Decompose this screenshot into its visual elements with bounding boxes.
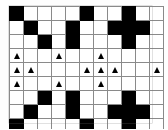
filled-cell xyxy=(122,91,136,105)
triangle-marker-icon xyxy=(112,67,118,73)
empty-cell xyxy=(150,91,164,105)
empty-cell xyxy=(38,119,52,130)
empty-cell xyxy=(136,63,150,77)
empty-cell xyxy=(150,49,164,63)
empty-cell xyxy=(52,63,66,77)
empty-cell xyxy=(108,91,122,105)
empty-cell xyxy=(66,77,80,91)
triangle-marker-icon xyxy=(14,67,20,73)
filled-cell xyxy=(38,35,52,49)
grid-body xyxy=(10,7,164,130)
grid-row xyxy=(10,105,164,119)
grid-row xyxy=(10,119,164,130)
filled-cell xyxy=(122,21,136,35)
empty-cell xyxy=(94,119,108,130)
empty-cell xyxy=(38,49,52,63)
filled-cell xyxy=(66,21,80,35)
empty-cell xyxy=(136,77,150,91)
triangle-marker-cell xyxy=(10,63,24,77)
triangle-marker-icon xyxy=(56,81,62,87)
empty-cell xyxy=(24,7,38,21)
empty-cell xyxy=(94,35,108,49)
empty-cell xyxy=(38,77,52,91)
filled-cell xyxy=(24,21,38,35)
empty-cell xyxy=(108,119,122,130)
triangle-marker-icon xyxy=(14,81,20,87)
empty-cell xyxy=(38,21,52,35)
grid-row xyxy=(10,49,164,63)
empty-cell xyxy=(38,63,52,77)
triangle-marker-icon xyxy=(84,67,90,73)
empty-cell xyxy=(24,49,38,63)
empty-cell xyxy=(122,49,136,63)
empty-cell xyxy=(136,7,150,21)
triangle-marker-cell xyxy=(52,77,66,91)
triangle-marker-cell xyxy=(94,77,108,91)
empty-cell xyxy=(10,21,24,35)
filled-cell xyxy=(108,21,122,35)
empty-cell xyxy=(150,35,164,49)
filled-cell xyxy=(10,119,24,130)
triangle-marker-cell xyxy=(150,63,164,77)
triangle-marker-cell xyxy=(52,49,66,63)
empty-cell xyxy=(24,77,38,91)
filled-cell xyxy=(66,105,80,119)
empty-cell xyxy=(150,119,164,130)
empty-cell xyxy=(10,105,24,119)
empty-cell xyxy=(94,105,108,119)
triangle-marker-cell xyxy=(10,49,24,63)
grid-row xyxy=(10,21,164,35)
triangle-marker-cell xyxy=(108,63,122,77)
empty-cell xyxy=(80,77,94,91)
empty-cell xyxy=(10,91,24,105)
empty-cell xyxy=(52,7,66,21)
empty-cell xyxy=(136,35,150,49)
empty-cell xyxy=(66,63,80,77)
triangle-marker-cell xyxy=(10,77,24,91)
empty-cell xyxy=(52,119,66,130)
empty-cell xyxy=(108,7,122,21)
empty-cell xyxy=(52,35,66,49)
filled-cell xyxy=(38,91,52,105)
lattice-grid xyxy=(9,6,164,129)
triangle-marker-icon xyxy=(28,67,34,73)
grid-row xyxy=(10,77,164,91)
grid-row xyxy=(10,7,164,21)
empty-cell xyxy=(10,35,24,49)
triangle-marker-icon xyxy=(56,53,62,59)
filled-cell xyxy=(80,119,94,130)
filled-cell xyxy=(108,105,122,119)
triangle-marker-cell xyxy=(94,63,108,77)
empty-cell xyxy=(122,77,136,91)
empty-cell xyxy=(80,21,94,35)
empty-cell xyxy=(108,49,122,63)
empty-cell xyxy=(94,91,108,105)
filled-cell xyxy=(24,105,38,119)
empty-cell xyxy=(150,77,164,91)
empty-cell xyxy=(150,7,164,21)
grid-container xyxy=(9,6,164,129)
empty-cell xyxy=(38,105,52,119)
empty-cell xyxy=(136,49,150,63)
empty-cell xyxy=(122,63,136,77)
filled-cell xyxy=(122,7,136,21)
triangle-marker-icon xyxy=(154,67,160,73)
triangle-marker-icon xyxy=(98,81,104,87)
empty-cell xyxy=(136,119,150,130)
empty-cell xyxy=(52,21,66,35)
empty-cell xyxy=(24,35,38,49)
filled-cell xyxy=(136,105,150,119)
empty-cell xyxy=(66,49,80,63)
lattice-pattern-diagram xyxy=(0,0,168,129)
empty-cell xyxy=(108,35,122,49)
filled-cell xyxy=(66,35,80,49)
grid-row xyxy=(10,35,164,49)
filled-cell xyxy=(122,105,136,119)
empty-cell xyxy=(80,91,94,105)
empty-cell xyxy=(136,91,150,105)
triangle-marker-cell xyxy=(80,63,94,77)
triangle-marker-icon xyxy=(14,53,20,59)
triangle-marker-icon xyxy=(98,53,104,59)
filled-cell xyxy=(10,7,24,21)
grid-row xyxy=(10,63,164,77)
